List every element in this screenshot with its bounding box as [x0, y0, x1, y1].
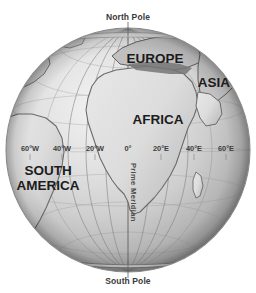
prime-meridian-label: Prime Meridian	[129, 163, 138, 222]
globe-diagram: North Pole	[0, 0, 256, 293]
longitude-label-20e: 20°E	[153, 144, 169, 153]
continent-label-south-america-line2: AMERICA	[17, 178, 80, 193]
continent-label-south-america-line1: SOUTH	[24, 163, 71, 178]
longitude-label-0: 0°	[124, 144, 131, 153]
globe-graphic: 60°W 40°W 20°W 0° 20°E 40°E 60°E EUROPE …	[0, 0, 256, 293]
longitude-label-60w: 60°W	[21, 144, 39, 153]
longitude-label-40e: 40°E	[186, 144, 202, 153]
continent-label-europe: EUROPE	[126, 51, 183, 66]
south-pole-label: South Pole	[0, 276, 256, 286]
longitude-label-40w: 40°W	[53, 144, 71, 153]
longitude-label-60e: 60°E	[218, 144, 234, 153]
continent-label-africa: AFRICA	[133, 112, 184, 127]
longitude-label-20w: 20°W	[86, 144, 104, 153]
continent-label-asia: ASIA	[198, 75, 231, 90]
